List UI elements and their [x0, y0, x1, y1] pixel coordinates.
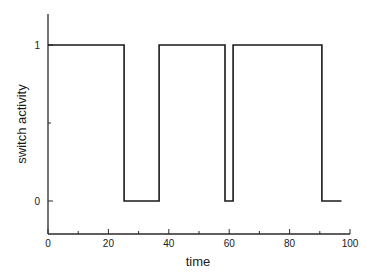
x-tick-label: 100	[342, 238, 359, 249]
x-tick-label: 20	[103, 238, 115, 249]
axes: 02040608010001	[34, 14, 358, 249]
y-axis-title: switch activity	[14, 84, 29, 164]
x-tick-label: 80	[284, 238, 296, 249]
x-axis-title: time	[186, 254, 211, 269]
switch-activity-line	[48, 45, 342, 201]
x-tick-label: 0	[45, 238, 51, 249]
data-series	[48, 45, 342, 201]
y-tick-label: 1	[34, 40, 40, 51]
x-tick-label: 40	[163, 238, 175, 249]
y-tick-label: 0	[34, 196, 40, 207]
switch-activity-chart: 02040608010001 time switch activity	[0, 0, 373, 277]
x-tick-label: 60	[224, 238, 236, 249]
